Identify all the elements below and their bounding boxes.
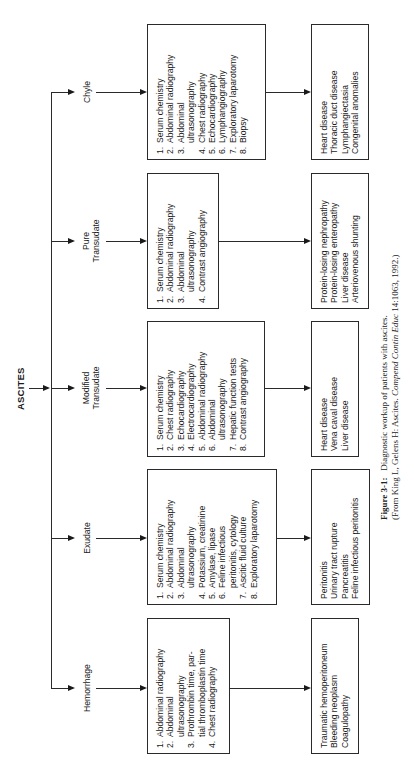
label-connector xyxy=(96,92,140,93)
tests-list: 1.Serum chemistry2.Abdominal radiography… xyxy=(155,500,259,599)
test-number: 7. xyxy=(228,444,238,451)
label-connector xyxy=(96,538,140,539)
test-item: 3.Echocardiography xyxy=(176,352,186,451)
test-item: 5.Abdominal radiography xyxy=(197,352,207,451)
arrow-icon xyxy=(304,89,311,95)
tests-list: 1.Serum chemistry2.Abdominal radiography… xyxy=(155,204,207,303)
label-connector xyxy=(96,688,140,689)
branch-connector xyxy=(51,538,69,539)
result-item: Liver disease xyxy=(340,200,350,303)
figure-label: Figure 3-1: xyxy=(379,477,389,520)
test-text: Ascitic fluid culture xyxy=(238,517,248,588)
test-item: 1.Abdominal radiography xyxy=(155,649,165,748)
test-text: Serum chemistry xyxy=(155,376,165,440)
result-item: Pancreatitis xyxy=(340,498,350,599)
test-number: 6. xyxy=(217,147,227,154)
results-box: Protein-losing nephropathyProtein-losing… xyxy=(311,173,369,309)
test-text: Abdominal radiography xyxy=(165,55,175,143)
test-text-continued: ultrasonography xyxy=(217,352,227,440)
test-text: Abdominal radiography xyxy=(165,500,175,588)
test-number: 8. xyxy=(238,444,248,451)
test-number: 5. xyxy=(207,147,217,154)
test-text: Lymphangiography xyxy=(217,70,227,143)
test-number: 3. xyxy=(176,592,186,599)
figure-text: Diagnostic workup of patients with ascit… xyxy=(379,315,389,470)
tests-box: 1.Serum chemistry2.Abdominal radiography… xyxy=(147,469,277,605)
results-unordered-list: Heart diseaseThoracic duct diseaseLympha… xyxy=(319,70,361,154)
test-item: 3.Abdominalultrasonography xyxy=(176,500,197,599)
test-item: 2.Abdominal radiography xyxy=(165,55,175,154)
test-text: Biopsy xyxy=(238,117,248,143)
test-number: 5. xyxy=(207,592,217,599)
results-unordered-list: Traumatic hemoperitoneumBleeding neoplas… xyxy=(319,643,350,748)
test-item: 1.Serum chemistry xyxy=(155,352,165,451)
test-number: 2. xyxy=(165,741,175,748)
test-item: 1.Serum chemistry xyxy=(155,204,165,303)
results-unordered-list: Heart diseaseVena caval diseaseLiver dis… xyxy=(319,377,350,451)
arrow-icon xyxy=(43,385,50,391)
title-connector xyxy=(29,388,44,389)
test-text: Abdominal xyxy=(176,547,186,588)
arrow-icon xyxy=(304,685,311,691)
arrow-icon xyxy=(304,535,311,541)
arrow-icon xyxy=(140,535,147,541)
branch-connector xyxy=(51,388,69,389)
test-item: 6.Lymphangiography xyxy=(217,55,227,154)
test-item: 5.Echocardiography xyxy=(207,55,217,154)
branch-label: Chyle xyxy=(82,62,92,122)
arrow-icon xyxy=(68,685,75,691)
tests-ordered-list: 1.Serum chemistry2.Abdominal radiography… xyxy=(155,55,249,154)
tests-box: 1.Serum chemistry2.Chest radiography3.Ec… xyxy=(147,321,265,457)
test-number: 4. xyxy=(197,592,207,599)
test-number: 3. xyxy=(176,296,186,303)
test-text: Exploratory laparotomy xyxy=(249,500,259,588)
tests-list: 1.Serum chemistry2.Abdominal radiography… xyxy=(155,55,249,154)
results-list: Heart diseaseVena caval diseaseLiver dis… xyxy=(319,377,350,451)
branch-label-line: Chyle xyxy=(82,62,92,122)
tests-box: 1.Serum chemistry2.Abdominal radiography… xyxy=(147,24,266,160)
result-item: Liver disease xyxy=(340,377,350,451)
tests-box: 1.Serum chemistry2.Abdominal radiography… xyxy=(147,173,219,309)
test-text: Abdominal xyxy=(165,696,175,737)
tests-ordered-list: 1.Serum chemistry2.Abdominal radiography… xyxy=(155,500,259,599)
test-number: 1. xyxy=(155,147,165,154)
test-number: 8. xyxy=(238,147,248,154)
results-connector xyxy=(277,538,304,539)
test-item: 6.Feline infectiousperitonitis, cytology xyxy=(217,500,238,599)
test-item: 3.Prothrombin time, par-tial thromboplas… xyxy=(186,649,207,748)
test-text-continued: peritonitis, cytology xyxy=(228,500,238,588)
result-item: Vena caval disease xyxy=(329,377,339,451)
tests-ordered-list: 1.Serum chemistry2.Abdominal radiography… xyxy=(155,204,207,303)
test-text: Abdominal radiography xyxy=(155,649,165,737)
branch-label: Hemorrhage xyxy=(82,658,92,718)
arrow-icon xyxy=(304,385,311,391)
test-text-continued: tial thromboplastin time xyxy=(197,649,207,737)
source-journal: Compend Contin Educ xyxy=(390,314,400,396)
result-item: Protein-losing nephropathy xyxy=(319,200,329,303)
test-item: 3.Abdominalultrasonography xyxy=(176,55,197,154)
test-text: Abdominal xyxy=(207,399,217,440)
test-item: 4.Contrast angiography xyxy=(197,204,207,303)
result-item: Thoracic duct disease xyxy=(329,70,339,154)
test-text: Potassium, creatinine xyxy=(197,506,207,588)
branch-label: PureTransudate xyxy=(81,211,101,271)
test-number: 8. xyxy=(249,592,259,599)
results-connector xyxy=(265,388,304,389)
test-item: 8.Exploratory laparotomy xyxy=(249,500,259,599)
test-number: 6. xyxy=(217,592,227,599)
test-text-continued: ultrasonography xyxy=(176,649,186,737)
arrow-icon xyxy=(68,238,75,244)
test-item: 7.Exploratory laparotomy xyxy=(228,55,238,154)
test-number: 4. xyxy=(197,296,207,303)
test-item: 6.Abdominalultrasonography xyxy=(207,352,228,451)
arrow-icon xyxy=(68,89,75,95)
test-text: Contrast angiography xyxy=(238,358,248,440)
branch-label: Exudate xyxy=(82,508,92,568)
test-number: 3. xyxy=(176,147,186,154)
source-suffix: 14:1063, 1992.) xyxy=(390,255,400,315)
result-item: Traumatic hemoperitoneum xyxy=(319,643,329,748)
test-text: Abdominal xyxy=(176,102,186,143)
test-item: 7.Hepatic function tests xyxy=(228,352,238,451)
test-item: 7.Ascitic fluid culture xyxy=(238,500,248,599)
test-text: Amylase, lipase xyxy=(207,528,217,588)
